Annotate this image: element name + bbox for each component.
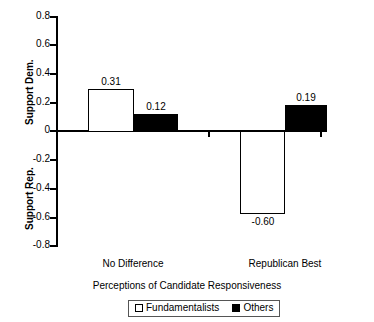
y-tick-label-0: 0: [4, 125, 50, 135]
y-tick-label-neg0.2-wrap: -0.2: [0, 154, 50, 164]
bar-value-label-fundamentalists-republican-best: -0.60: [239, 216, 287, 227]
x-axis-title: Perceptions of Candidate Responsiveness: [0, 280, 374, 291]
bar-others-no-difference: [134, 114, 178, 132]
y-tick-label-0.6: 0.6: [4, 39, 50, 49]
y-tick-label-0.8-wrap: 0.8: [0, 11, 50, 21]
bar-others-republican-best: [285, 105, 327, 132]
y-tick-label-0-wrap: 0: [0, 125, 50, 135]
y-tick-0.8: [50, 16, 57, 18]
y-tick-neg0.6: [50, 217, 57, 219]
legend-label-fundamentalists: Fundamentalists: [146, 302, 219, 314]
x-category-label-republican-best: Republican Best: [235, 258, 335, 269]
legend-swatch-open-icon: [135, 304, 143, 312]
bar-value-label-others-republican-best: 0.19: [283, 92, 329, 103]
y-tick-label-neg0.2: -0.2: [4, 154, 50, 164]
chart-figure: 0.8 0.6 0.4 0.2 0 -0.2 -0.4 -0.6 -0.8 Su…: [0, 0, 374, 322]
x-category-label-no-difference: No Difference: [83, 258, 183, 269]
x-tick-midpoint: [208, 132, 210, 137]
bar-fundamentalists-republican-best: [240, 131, 285, 214]
y-axis-caption-support-dem: Support Dem.: [24, 59, 35, 125]
legend-label-others: Others: [243, 302, 273, 314]
y-tick-label-0.6-wrap: 0.6: [0, 39, 50, 49]
y-axis-caption-support-rep: Support Rep.: [24, 167, 35, 230]
bar-fundamentalists-no-difference: [88, 89, 134, 132]
bar-value-label-others-no-difference: 0.12: [133, 101, 179, 112]
y-tick-0.4: [50, 73, 57, 75]
chart-legend: Fundamentalists Others: [128, 300, 280, 317]
x-tick-right-end: [320, 132, 322, 137]
y-tick-label-neg0.8-wrap: -0.8: [0, 240, 50, 250]
y-tick-neg0.8: [50, 245, 57, 247]
bar-value-label-fundamentalists-no-difference: 0.31: [88, 76, 134, 87]
y-tick-neg0.4: [50, 188, 57, 190]
y-tick-0.2: [50, 102, 57, 104]
y-tick-label-0.8: 0.8: [4, 11, 50, 21]
y-tick-label-neg0.8: -0.8: [4, 240, 50, 250]
y-tick-0.6: [50, 44, 57, 46]
y-tick-neg0.2: [50, 159, 57, 161]
legend-swatch-solid-icon: [232, 304, 240, 312]
y-tick-0: [50, 130, 57, 132]
